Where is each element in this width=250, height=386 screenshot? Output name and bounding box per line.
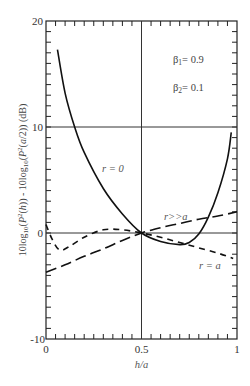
curve-r-0 bbox=[57, 50, 231, 245]
ytick-20: 20 bbox=[32, 15, 44, 27]
xtick-0: 0 bbox=[43, 343, 49, 355]
curve-label-ra: r = a bbox=[199, 260, 221, 271]
curve-label-rgg: r>>a bbox=[164, 211, 188, 222]
chart: 20 10 0 -10 0 0.5 1 h/a 10log10(P2(h)) -… bbox=[0, 0, 250, 386]
ytick-0: 0 bbox=[38, 227, 44, 239]
y-axis-label: 10log10(P2(h)) - 10log10(P2(a/2)) (dB) bbox=[16, 104, 30, 256]
xtick-1: 1 bbox=[234, 343, 240, 355]
curve-r-a bbox=[46, 225, 233, 259]
ytick-10: 10 bbox=[32, 121, 44, 133]
beta1-label: β1= 0.9 bbox=[173, 54, 204, 67]
xtick-05: 0.5 bbox=[135, 343, 149, 355]
beta2-label: β2= 0.1 bbox=[173, 82, 204, 95]
x-axis-label: h/a bbox=[135, 359, 148, 370]
curve-label-r0: r = 0 bbox=[102, 163, 124, 174]
